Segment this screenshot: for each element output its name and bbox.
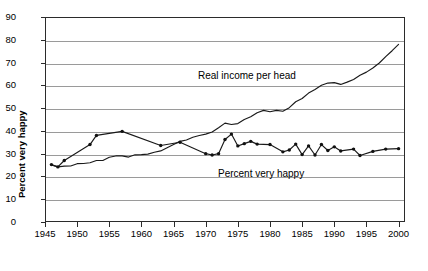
data-point	[333, 145, 336, 148]
y-tick-mark	[41, 131, 45, 132]
y-tick-mark	[41, 40, 45, 41]
data-point	[63, 159, 66, 162]
data-point	[352, 147, 355, 150]
x-tick-mark	[334, 222, 335, 227]
series-plot	[45, 17, 405, 222]
y-tick-label: 60	[0, 80, 16, 89]
data-point	[288, 148, 291, 151]
data-point	[307, 144, 310, 147]
y-tick-mark	[41, 176, 45, 177]
x-tick-mark	[45, 222, 46, 227]
data-point	[159, 144, 162, 147]
data-point	[210, 153, 213, 156]
y-tick-label: 40	[0, 126, 16, 135]
series-label-real-income-per-head: Real income per head	[198, 70, 296, 81]
x-tick-mark	[174, 222, 175, 227]
y-tick-label: 20	[0, 171, 16, 180]
data-point	[230, 132, 233, 135]
data-point	[50, 163, 53, 166]
data-point	[88, 143, 91, 146]
y-tick-label: 70	[0, 58, 16, 67]
x-tick-mark	[366, 222, 367, 227]
data-point	[371, 150, 374, 153]
data-point	[326, 149, 329, 152]
y-tick-label: 90	[0, 12, 16, 21]
y-tick-mark	[41, 199, 45, 200]
y-tick-mark	[41, 108, 45, 109]
series-line-0	[51, 44, 398, 167]
data-point	[384, 147, 387, 150]
series-line-1	[51, 131, 398, 167]
x-tick-mark	[109, 222, 110, 227]
y-tick-label: 10	[0, 194, 16, 203]
data-point	[339, 149, 342, 152]
data-point	[255, 142, 258, 145]
data-point	[95, 134, 98, 137]
y-tick-label: 30	[0, 149, 16, 158]
y-tick-mark	[41, 17, 45, 18]
chart-root: Percent very happy Real income per head …	[0, 0, 428, 271]
y-axis-title: Percent very happy	[16, 48, 32, 198]
x-tick-label: 2000	[379, 228, 419, 239]
data-point	[243, 142, 246, 145]
data-point	[281, 150, 284, 153]
data-point	[300, 153, 303, 156]
y-tick-mark	[41, 85, 45, 86]
y-tick-label: 80	[0, 35, 16, 44]
y-tick-mark	[41, 63, 45, 64]
data-point	[204, 152, 207, 155]
data-point	[358, 154, 361, 157]
y-tick-mark	[41, 154, 45, 155]
data-point	[320, 143, 323, 146]
data-point	[268, 143, 271, 146]
data-point	[249, 140, 252, 143]
series-label-percent-very-happy: Percent very happy	[218, 168, 304, 179]
data-point	[223, 138, 226, 141]
data-point	[397, 147, 400, 150]
x-tick-mark	[302, 222, 303, 227]
y-tick-label: 50	[0, 103, 16, 112]
x-tick-mark	[399, 222, 400, 227]
data-point	[178, 141, 181, 144]
x-tick-mark	[141, 222, 142, 227]
data-point	[56, 165, 59, 168]
data-point	[217, 152, 220, 155]
x-tick-mark	[238, 222, 239, 227]
y-tick-label: 0	[0, 217, 16, 226]
x-tick-mark	[206, 222, 207, 227]
data-point	[236, 144, 239, 147]
data-point	[120, 130, 123, 133]
x-tick-mark	[77, 222, 78, 227]
x-tick-mark	[270, 222, 271, 227]
data-point	[313, 153, 316, 156]
data-point	[294, 142, 297, 145]
